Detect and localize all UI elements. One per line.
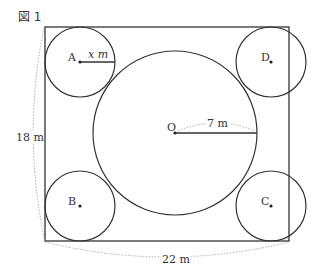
width-label: 22 m [162, 253, 190, 266]
height-label: 18 m [16, 131, 44, 144]
point-label-c: C [261, 195, 269, 208]
center-point-b [78, 204, 81, 207]
point-label-b: B [68, 195, 76, 208]
rectangle [45, 27, 289, 241]
point-label-o: O [167, 121, 176, 134]
radius-label-large: 7 m [207, 117, 228, 130]
center-point-a [78, 60, 81, 63]
center-point-c [269, 204, 272, 207]
center-point-d [269, 60, 272, 63]
figure-diagram: 図 1 O 7 m A x m D B C 18 m 22 m [0, 0, 321, 274]
point-label-a: A [67, 51, 77, 64]
radius-label-small: x m [88, 48, 108, 61]
figure-title: 図 1 [18, 10, 41, 24]
point-label-d: D [261, 51, 270, 64]
